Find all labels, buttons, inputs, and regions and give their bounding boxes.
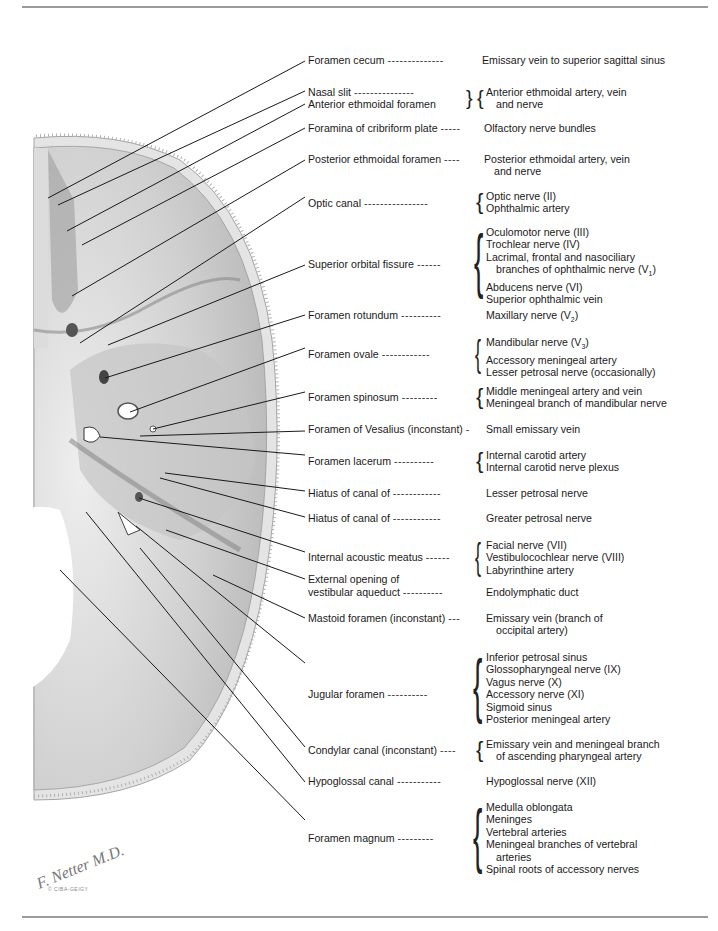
label-internal-acoustic-meatus: Internal acoustic meatus ------ xyxy=(308,551,450,563)
content-hypoglossal-nerve: Hypoglossal nerve (XII) xyxy=(486,775,596,787)
content-internal-acoustic-meatus: Facial nerve (VII) Vestibulocochlear ner… xyxy=(486,539,624,576)
label-hypoglossal-canal: Hypoglossal canal ----------- xyxy=(308,775,441,787)
brace-icon: { xyxy=(477,86,484,110)
content-olfactory: Olfactory nerve bundles xyxy=(484,122,596,134)
content-foramen-lacerum: Internal carotid artery Internal carotid… xyxy=(486,449,619,474)
brace-icon: { xyxy=(473,647,482,723)
label-foramen-lacerum: Foramen lacerum ---------- xyxy=(308,455,434,467)
brace-icon: { xyxy=(476,190,483,214)
content-optic-canal: Optic nerve (II) Ophthalmic artery xyxy=(486,190,570,215)
label-foramen-cecum: Foramen cecum -------------- xyxy=(308,54,444,66)
brace-icon: } xyxy=(466,86,473,110)
content-greater-petrosal-nerve: Greater petrosal nerve xyxy=(486,512,592,524)
content-foramen-magnum: Medulla oblongata Meninges Vertebral art… xyxy=(486,801,639,875)
content-mastoid-emissary-vein: Emissary vein (branch of occipital arter… xyxy=(486,612,603,637)
label-foramen-of-vesalius: Foramen of Vesalius (inconstant) - xyxy=(308,423,470,435)
bottom-rule xyxy=(22,916,708,918)
brace-icon: { xyxy=(476,738,483,762)
label-posterior-ethmoidal-foramen: Posterior ethmoidal foramen ---- xyxy=(308,153,460,165)
content-small-emissary-vein: Small emissary vein xyxy=(486,423,580,435)
label-foramen-spinosum: Foramen spinosum --------- xyxy=(308,391,438,403)
label-external-opening-of: External opening of xyxy=(308,573,399,585)
brace-icon: { xyxy=(473,797,482,873)
label-cribriform-plate: Foramina of cribriform plate ----- xyxy=(308,122,461,134)
label-foramen-magnum: Foramen magnum --------- xyxy=(308,832,434,844)
label-mastoid-foramen: Mastoid foramen (inconstant) --- xyxy=(308,612,460,624)
brace-icon: { xyxy=(474,222,483,298)
content-foramen-cecum: Emissary vein to superior sagittal sinus xyxy=(482,54,665,66)
content-lesser-petrosal-nerve: Lesser petrosal nerve xyxy=(486,487,588,499)
content-endolymphatic-duct: Endolymphatic duct xyxy=(486,586,578,598)
label-jugular-foramen: Jugular foramen ---------- xyxy=(308,688,428,700)
content-superior-orbital-fissure: Oculomotor nerve (III) Trochlear nerve (… xyxy=(486,226,656,306)
brace-icon: { xyxy=(476,385,483,409)
label-optic-canal: Optic canal ---------------- xyxy=(308,197,428,209)
label-anterior-ethmoidal-foramen: Anterior ethmoidal foramen xyxy=(308,98,436,110)
brace-icon: { xyxy=(476,449,483,473)
content-jugular-foramen: Inferior petrosal sinus Glossopharyngeal… xyxy=(486,651,621,725)
label-foramen-ovale: Foramen ovale ------------ xyxy=(308,348,430,360)
label-vestibular-aqueduct: vestibular aqueduct ---------- xyxy=(308,586,443,598)
label-foramen-rotundum: Foramen rotundum ---------- xyxy=(308,309,441,321)
content-condylar-canal: Emissary vein and meningeal branch of as… xyxy=(486,738,660,763)
brace-icon: { xyxy=(475,334,481,374)
content-posterior-ethmoidal: Posterior ethmoidal artery, vein and ner… xyxy=(484,153,630,178)
label-hiatus-lesser-petrosal: Hiatus of canal of ------------ xyxy=(308,487,441,499)
copyright-text: © CIBA-GEIGY xyxy=(48,886,88,892)
label-hiatus-greater-petrosal: Hiatus of canal of ------------ xyxy=(308,512,441,524)
label-superior-orbital-fissure: Superior orbital fissure ------ xyxy=(308,258,441,270)
content-anterior-ethmoidal: Anterior ethmoidal artery, vein and nerv… xyxy=(486,86,627,111)
label-nasal-slit: Nasal slit --------------- xyxy=(308,86,414,98)
content-foramen-spinosum: Middle meningeal artery and vein Meninge… xyxy=(486,385,667,410)
content-maxillary-nerve: Maxillary nerve (V2) xyxy=(486,309,578,327)
label-condylar-canal: Condylar canal (inconstant) ---- xyxy=(308,744,456,756)
content-foramen-ovale: Mandibular nerve (V3) Accessory meningea… xyxy=(486,336,656,378)
brace-icon: { xyxy=(475,537,481,577)
